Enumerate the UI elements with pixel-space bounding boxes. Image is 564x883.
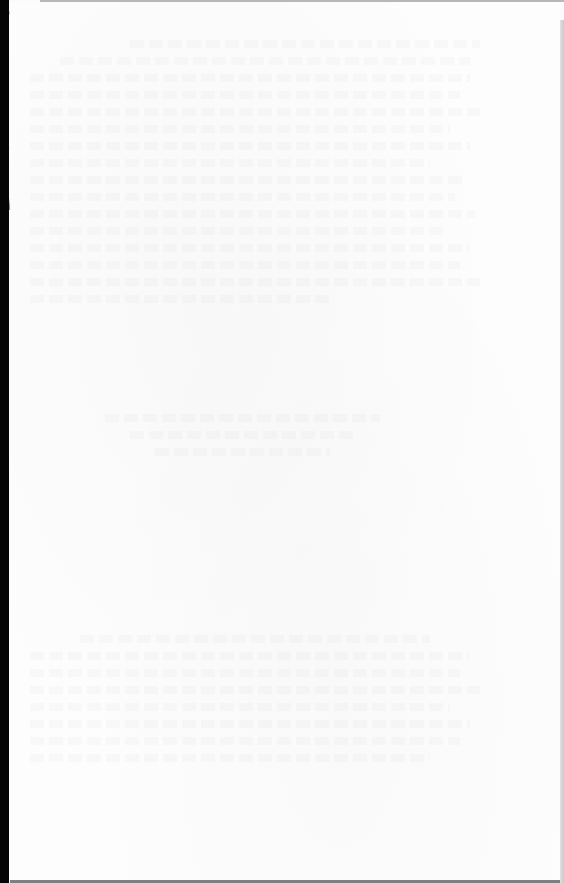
blank-paper-area [8,2,560,880]
scanned-page [0,0,564,883]
top-page-edge [40,0,564,2]
right-page-edge [560,20,564,883]
binding-edge [0,0,9,883]
